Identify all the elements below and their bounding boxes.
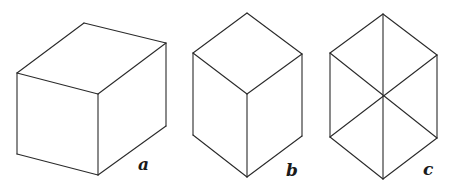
figure-canvas: a b c: [0, 0, 454, 190]
edge-line: [17, 73, 98, 94]
edge-line: [17, 23, 84, 73]
figure-a-box: a: [17, 23, 166, 175]
figure-label-c: c: [423, 159, 434, 179]
figure-label-b: b: [286, 160, 298, 180]
edge-line: [98, 126, 166, 175]
figure-b-cube: b: [193, 13, 302, 180]
edge-line: [84, 23, 166, 43]
figure-label-a: a: [138, 154, 149, 174]
edge-line: [98, 43, 166, 94]
edge-line: [247, 13, 302, 54]
figure-c-hexagon: c: [330, 14, 437, 179]
edge-line: [17, 154, 98, 175]
edge-line: [193, 13, 247, 53]
edge-line: [247, 54, 302, 94]
edge-line: [193, 53, 247, 94]
edge-line: [193, 135, 247, 177]
edge-line: [330, 14, 383, 53]
edge-line: [383, 14, 437, 55]
edge-line: [330, 137, 383, 179]
